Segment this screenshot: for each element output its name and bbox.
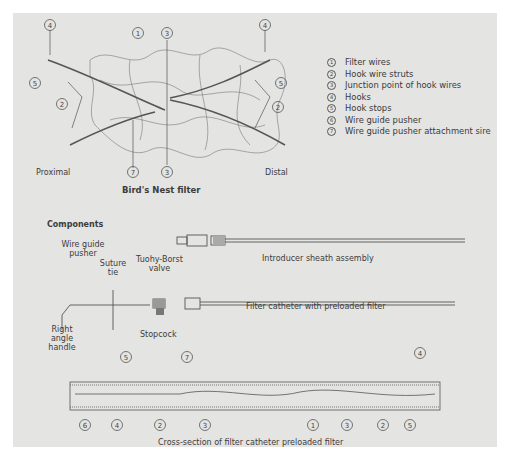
label-tuohy-borst-valve: Tuohy-Borst valve: [132, 255, 187, 273]
svg-text:4: 4: [418, 350, 423, 358]
legend-item: 2Hook wire struts: [327, 69, 491, 81]
svg-text:5: 5: [279, 80, 283, 88]
figure-title: Bird's Nest filter: [122, 186, 200, 195]
components-heading: Components: [47, 220, 103, 229]
legend-item: 3Junction point of hook wires: [327, 80, 491, 92]
label-right-angle-handle: Right angle handle: [44, 325, 80, 352]
svg-text:4: 4: [115, 422, 120, 430]
svg-text:1: 1: [311, 422, 315, 430]
svg-text:2: 2: [158, 422, 162, 430]
svg-text:2: 2: [381, 422, 385, 430]
label-suture-tie: Suture tie: [98, 259, 128, 277]
legend-item: 7Wire guide pusher attachment sire: [327, 126, 491, 138]
svg-text:2: 2: [60, 101, 64, 109]
legend-item: 1Filter wires: [327, 57, 491, 69]
svg-text:1: 1: [136, 30, 140, 38]
label-distal: Distal: [265, 168, 288, 177]
label-wire-guide-pusher: Wire guide pusher: [58, 240, 108, 258]
legend: 1Filter wires 2Hook wire struts 3Junctio…: [327, 57, 491, 138]
cross-section-caption: Cross-section of filter catheter preload…: [158, 438, 343, 447]
svg-text:3: 3: [345, 422, 349, 430]
label-stopcock: Stopcock: [140, 330, 177, 339]
svg-text:3: 3: [165, 169, 169, 177]
legend-item: 5Hook stops: [327, 103, 491, 115]
label-introducer-sheath: Introducer sheath assembly: [262, 254, 374, 263]
svg-text:7: 7: [131, 169, 135, 177]
svg-text:6: 6: [83, 422, 88, 430]
label-proximal: Proximal: [36, 168, 70, 177]
svg-text:2: 2: [276, 104, 280, 112]
svg-text:4: 4: [263, 22, 268, 30]
svg-text:3: 3: [165, 30, 169, 38]
svg-text:5: 5: [124, 354, 128, 362]
legend-item: 6Wire guide pusher: [327, 115, 491, 127]
svg-text:3: 3: [203, 422, 207, 430]
svg-text:7: 7: [185, 354, 189, 362]
label-filter-catheter: Filter catheter with preloaded filter: [246, 302, 386, 311]
svg-text:5: 5: [408, 422, 412, 430]
legend-item: 4Hooks: [327, 92, 491, 104]
svg-text:4: 4: [48, 22, 53, 30]
svg-text:5: 5: [33, 80, 37, 88]
